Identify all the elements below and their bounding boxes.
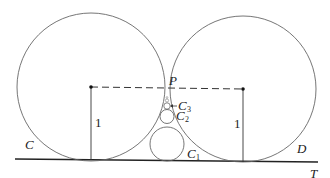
circle-c3 xyxy=(164,103,170,109)
circle-tangency-diagram: C D P T 1 1 C 1 C 2 C 3 xyxy=(0,0,330,178)
label-p: P xyxy=(168,73,177,88)
label-radius-right: 1 xyxy=(234,116,241,131)
label-c3: C xyxy=(178,98,187,113)
label-t: T xyxy=(310,166,318,178)
label-c1-sub: 1 xyxy=(196,153,200,162)
circle-c1 xyxy=(150,127,184,161)
circle-c2 xyxy=(160,110,174,124)
label-d: D xyxy=(296,141,307,156)
label-c: C xyxy=(25,137,34,152)
tangent-line-t xyxy=(15,159,318,162)
center-dot-d xyxy=(241,87,245,91)
label-c1: C xyxy=(187,146,196,161)
label-radius-left: 1 xyxy=(95,115,102,130)
center-connector-dashed xyxy=(91,87,243,89)
circle-c4 xyxy=(165,99,168,102)
label-c2-sub: 2 xyxy=(185,115,189,124)
label-c3-sub: 3 xyxy=(187,105,191,114)
circle-c5 xyxy=(166,97,168,99)
center-dot-c xyxy=(89,85,93,89)
